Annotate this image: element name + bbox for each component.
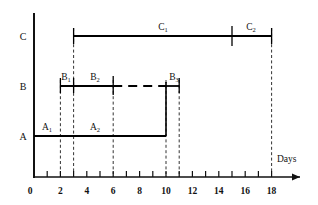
x-tick-label-12: 12 [188,186,198,196]
bar-label-c2: C2 [246,22,256,33]
row-label-b: B [20,81,27,92]
chart-canvas: 0 2 4 6 8 10 12 14 16 18 Days C B A A1 [0,0,318,205]
x-axis-arrowhead [292,173,300,180]
bar-row-c: C1 C2 [74,22,272,46]
x-tick-label-14: 14 [214,186,224,196]
row-labels: C B A [19,31,27,142]
x-tick-label-4: 4 [84,186,89,196]
gantt-timeline-figure: 0 2 4 6 8 10 12 14 16 18 Days C B A A1 [0,0,318,205]
x-tick-label-18: 18 [267,186,277,196]
bar-label-a2: A2 [90,122,100,133]
x-axis-caption: Days [277,154,297,164]
x-tick-label-16: 16 [240,186,250,196]
x-tick-label-10: 10 [161,186,171,196]
bar-label-b2: B2 [90,72,100,83]
x-axis-ticks [47,171,271,177]
row-label-a: A [19,131,27,142]
x-tick-label-6: 6 [111,186,116,196]
bar-row-b: B1 B2 B3 [60,72,179,95]
bar-label-b1: B1 [61,72,71,83]
x-axis: 0 2 4 6 8 10 12 14 16 18 Days [28,154,300,196]
bar-label-b3: B3 [169,72,179,83]
x-tick-label-2: 2 [58,186,63,196]
row-label-c: C [20,31,27,42]
x-tick-label-8: 8 [137,186,142,196]
bar-row-a: A1 A2 [34,82,166,136]
x-axis-origin-label: 0 [28,186,33,196]
bar-label-a1: A1 [42,122,52,133]
bar-label-c1: C1 [158,22,168,33]
